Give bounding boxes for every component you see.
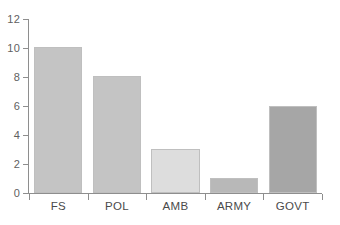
y-axis-tick-label: 4	[0, 130, 20, 141]
x-axis-label-amb: AMB	[146, 201, 205, 213]
x-axis-tick	[322, 194, 323, 200]
x-axis-tick	[146, 194, 147, 200]
y-axis-tick-label: 2	[0, 159, 20, 170]
x-axis-tick	[205, 194, 206, 200]
x-axis-tick	[263, 194, 264, 200]
y-axis-tick-label: 10	[0, 43, 20, 54]
x-axis-label-fs: FS	[29, 201, 88, 213]
x-axis-label-govt: GOVT	[263, 201, 322, 213]
bar-pol[interactable]	[93, 76, 141, 193]
y-axis-tick-label: 0	[0, 188, 20, 199]
x-axis-tick	[29, 194, 30, 200]
y-axis-tick-label: 6	[0, 101, 20, 112]
y-axis-tick-label: 12	[0, 14, 20, 25]
bar-amb[interactable]	[151, 149, 199, 193]
x-axis-tick	[88, 194, 89, 200]
bar-chart: 024681012 FSPOLAMBARMYGOVT	[0, 0, 340, 225]
x-axis-line	[28, 193, 322, 194]
x-axis-label-army: ARMY	[205, 201, 264, 213]
y-axis-tick-label: 8	[0, 72, 20, 83]
bars-group	[29, 19, 322, 193]
bar-army[interactable]	[210, 178, 258, 193]
bar-govt[interactable]	[269, 106, 317, 193]
bar-fs[interactable]	[34, 47, 82, 193]
x-axis-label-pol: POL	[88, 201, 147, 213]
